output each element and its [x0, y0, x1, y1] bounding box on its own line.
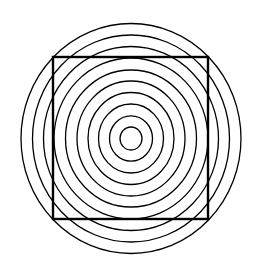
background	[0, 0, 258, 272]
concentric-circles-square-illusion	[0, 0, 258, 272]
diagram-canvas	[0, 0, 258, 272]
